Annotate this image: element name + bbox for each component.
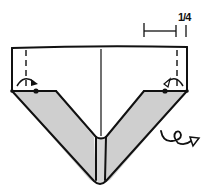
measurement-bracket bbox=[144, 23, 186, 37]
right-fold-arrow bbox=[164, 79, 183, 87]
left-fold-arrow bbox=[17, 79, 38, 86]
turn-over-arrow bbox=[161, 131, 199, 146]
measurement-label: 1/4 bbox=[178, 11, 190, 23]
origami-diagram: 1/4 bbox=[0, 0, 216, 195]
right-corner-dot bbox=[185, 89, 189, 93]
left-reference-dot bbox=[33, 88, 38, 93]
diagram-canvas bbox=[0, 0, 216, 195]
left-corner-dot bbox=[10, 89, 14, 93]
right-reference-dot bbox=[162, 88, 167, 93]
